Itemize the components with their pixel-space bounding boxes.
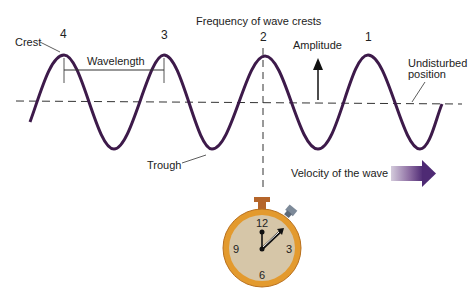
- crest-number-2: 2: [260, 31, 267, 43]
- crest-label: Crest: [15, 37, 41, 48]
- undisturbed-label-line2: position: [408, 69, 446, 80]
- amplitude-arrow-head: [313, 58, 323, 70]
- undisturbed-leader: [412, 82, 425, 102]
- crest-number-3: 3: [161, 29, 168, 41]
- wavelength-label: Wavelength: [87, 56, 145, 67]
- trough-leader: [182, 155, 206, 163]
- stopwatch-icon: 12 3 6 9: [223, 197, 301, 287]
- stopwatch-number-3: 3: [286, 243, 292, 255]
- stopwatch-number-12: 12: [256, 217, 268, 229]
- crest-number-4: 4: [60, 28, 67, 40]
- crest-leader: [40, 42, 60, 52]
- crest-number-1: 1: [365, 31, 372, 43]
- wave-diagram: 12 3 6 9: [0, 0, 476, 297]
- diagram-title: Frequency of wave crests: [196, 16, 321, 27]
- stopwatch-number-6: 6: [259, 269, 265, 281]
- velocity-label: Velocity of the wave: [291, 168, 388, 179]
- velocity-arrow-icon: [391, 160, 436, 187]
- amplitude-label: Amplitude: [293, 40, 342, 51]
- trough-label: Trough: [147, 160, 181, 171]
- stopwatch-number-9: 9: [233, 243, 239, 255]
- wave-curve: [30, 55, 442, 149]
